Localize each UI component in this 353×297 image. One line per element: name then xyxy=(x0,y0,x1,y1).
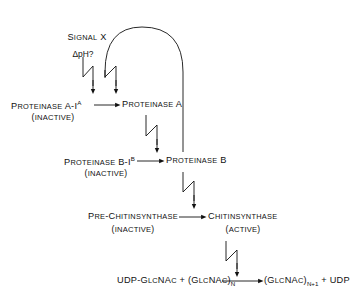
proteinase-a-lightning-arrow xyxy=(146,115,157,151)
reaction-substrates-label: UDP-GLCNAC + (GLCNAC)N xyxy=(117,276,235,287)
proteinase-b-i-state: (INACTIVE) xyxy=(85,169,128,178)
delta-ph-label: ΔpH? xyxy=(73,50,94,59)
pre-chitinsynthase-label: PRE-CHITINSYNTHASE xyxy=(88,212,178,222)
signal-x-label: SIGNAL X xyxy=(67,33,106,43)
pathway-diagram: SIGNAL X ΔpH? PROTEINASE A-IA (INACTIVE)… xyxy=(0,0,353,297)
proteinase-b-i-label: PROTEINASE B-IB xyxy=(64,156,135,168)
proteinase-a-i-state: (INACTIVE) xyxy=(32,113,75,122)
chitinsynthase-lightning-arrow xyxy=(226,241,237,275)
pre-chitinsynthase-state: (INACTIVE) xyxy=(112,225,155,234)
signal-x-lightning-arrow xyxy=(83,57,93,92)
proteinase-b-lightning-arrow xyxy=(183,172,194,207)
proteinase-b-i-superscript: B xyxy=(131,155,135,162)
proteinase-a-label: PROTEINASE A xyxy=(122,100,182,110)
chitinsynthase-label: CHITINSYNTHASE xyxy=(208,212,277,222)
proteinase-b-feedback-arch xyxy=(105,27,183,152)
proteinase-b-label: PROTEINASE B xyxy=(166,156,227,166)
glcnac-n-subscript: N xyxy=(231,280,235,287)
proteinase-a-i-superscript: A xyxy=(77,99,81,106)
glcnac-n-plus-1-subscript: N+1 xyxy=(307,280,319,287)
diagram-lines-layer xyxy=(0,0,353,297)
chitinsynthase-state: (ACTIVE) xyxy=(226,225,261,234)
reaction-products-label: (GLCNAC)N+1 + UDP xyxy=(264,276,350,287)
feedback-lightning-arrow xyxy=(105,66,116,92)
proteinase-a-i-label: PROTEINASE A-IA xyxy=(11,100,81,112)
